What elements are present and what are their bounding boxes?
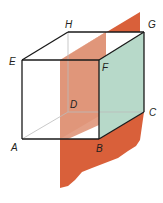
label-g: G (148, 19, 156, 30)
label-c: C (149, 107, 157, 118)
label-e: E (9, 56, 16, 67)
label-h: H (65, 19, 73, 30)
label-d: D (70, 99, 77, 110)
label-b: B (96, 143, 103, 154)
plane-front-section (60, 60, 99, 139)
cube-plane-diagram: H G E F D C A B (0, 0, 163, 203)
label-f: F (102, 62, 109, 73)
label-a: A (10, 142, 18, 153)
